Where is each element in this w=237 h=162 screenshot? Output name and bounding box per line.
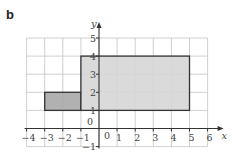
x-tick-label-0: 0 [104,130,110,141]
x-tick-label: −3 [40,132,54,143]
x-tick-label: 4 [170,132,176,143]
coordinate-grid: −4−3−2−10123456−1012345xy [0,0,237,162]
x-axis-name: x [222,130,228,141]
y-tick-label: 4 [90,51,96,62]
small-rectangle [45,92,81,110]
y-tick-label: 2 [90,87,96,98]
x-tick-label: 3 [152,132,158,143]
y-tick-label: −1 [82,141,96,152]
x-tick-label: 5 [188,132,194,143]
y-tick-label: 5 [90,33,96,44]
x-tick-label: 2 [134,132,140,143]
shapes [45,56,190,110]
x-tick-label: 6 [207,132,213,143]
x-tick-label: 1 [116,132,122,143]
y-axis-arrow-icon [97,22,102,28]
y-tick-label: 3 [90,69,96,80]
x-tick-label: −4 [22,132,36,143]
x-tick-label: −2 [58,132,72,143]
y-axis-name: y [90,18,97,29]
large-rectangle [81,56,190,110]
y-tick-label-0: 0 [87,116,93,127]
y-tick-label: 1 [90,105,96,116]
